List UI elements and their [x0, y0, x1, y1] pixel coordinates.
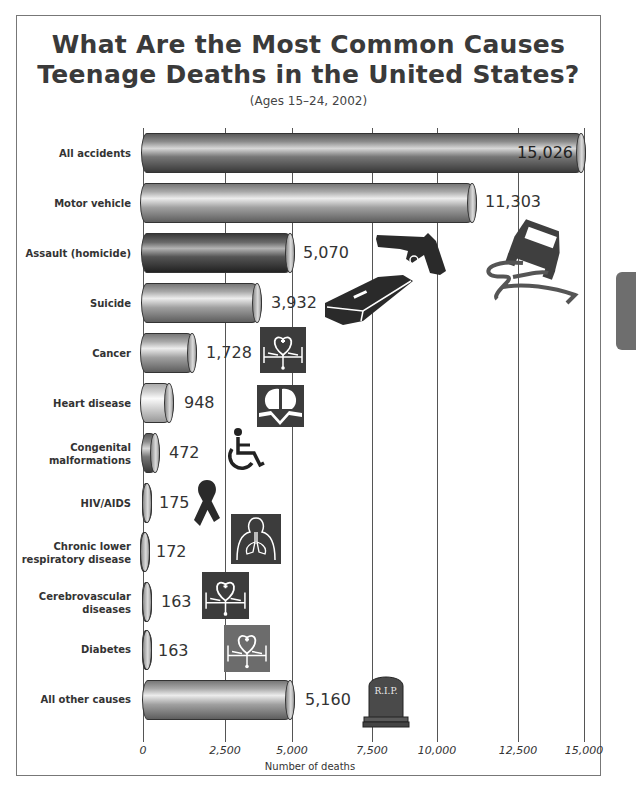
x-tick-12500: 12,500: [499, 744, 538, 757]
gridline-15000: [584, 128, 585, 742]
stethoscope-bed-glyph: [260, 327, 306, 373]
value-suicide: 3,932: [271, 293, 317, 312]
heart-icon: [257, 385, 304, 427]
bar-motor-vehicle: [140, 183, 477, 223]
stethoscope-bed-icon: [202, 572, 249, 619]
x-tick-15000: 15,000: [565, 744, 604, 757]
row-label-suicide: Suicide: [1, 297, 131, 310]
chart-title-line1: What Are the Most Common Causes: [16, 30, 601, 59]
stethoscope-bed-glyph: [202, 572, 249, 619]
skidding-car-icon: [483, 215, 583, 307]
value-assault: 5,070: [303, 243, 349, 262]
value-diabetes: 163: [158, 641, 189, 660]
bar-cancer: [140, 333, 197, 373]
stethoscope-bed-icon: [224, 625, 270, 672]
row-label-motor-vehicle: Motor vehicle: [1, 197, 131, 210]
bar-diabetes: [142, 630, 152, 670]
row-label-assault: Assault (homicide): [1, 247, 131, 260]
wheelchair-icon: [226, 427, 268, 471]
value-hiv-aids: 175: [159, 493, 190, 512]
lungs-icon: [231, 514, 281, 564]
bar-congenital: [141, 433, 160, 473]
label-line: diseases: [82, 604, 131, 615]
awareness-ribbon-icon: [192, 478, 222, 532]
chart-title-line2: Teenage Deaths in the United States?: [16, 60, 601, 89]
revolver-icon: [374, 233, 450, 278]
row-label-chronic-respiratory: Chronic lowerrespiratory disease: [1, 540, 131, 566]
chart-subtitle: (Ages 15–24, 2002): [16, 94, 601, 108]
row-label-cerebrovascular: Cerebrovasculardiseases: [1, 590, 131, 616]
chart-frame: [16, 15, 601, 776]
value-heart-disease: 948: [184, 393, 215, 412]
value-congenital: 472: [169, 443, 200, 462]
tombstone-icon: R.I.P.: [362, 672, 410, 728]
bar-heart-disease: [140, 383, 174, 423]
bar-hiv-aids: [142, 483, 152, 523]
bar-all-other: [142, 680, 295, 720]
lungs-glyph: [231, 514, 281, 564]
bar-chronic-respiratory: [140, 532, 150, 572]
row-label-hiv-aids: HIV/AIDS: [1, 497, 131, 510]
value-all-accidents: 15,026: [517, 143, 573, 162]
label-line: Chronic lower: [54, 541, 131, 552]
tombstone-glyph: [362, 672, 410, 728]
coffin-icon: [323, 273, 413, 328]
label-line: respiratory disease: [22, 554, 131, 565]
row-label-diabetes: Diabetes: [1, 643, 131, 656]
value-cerebrovascular: 163: [161, 592, 192, 611]
value-cancer: 1,728: [206, 343, 252, 362]
row-label-congenital: Congenitalmalformations: [1, 441, 131, 467]
stethoscope-bed-glyph: [224, 625, 270, 672]
heart-glyph: [257, 385, 304, 427]
row-label-heart-disease: Heart disease: [1, 397, 131, 410]
x-tick-10000: 10,000: [418, 744, 457, 757]
x-tick-0: 0: [140, 744, 147, 757]
x-tick-7500: 7,500: [356, 744, 388, 757]
row-label-all-other: All other causes: [1, 693, 131, 706]
x-tick-2500: 2,500: [209, 744, 241, 757]
tombstone-text: R.I.P.: [362, 686, 410, 696]
label-line: Congenital: [70, 442, 131, 453]
value-all-other: 5,160: [305, 690, 351, 709]
x-tick-5000: 5,000: [276, 744, 308, 757]
bar-assault: [141, 233, 295, 273]
value-chronic-respiratory: 172: [156, 542, 187, 561]
label-line: Cerebrovascular: [39, 591, 131, 602]
value-motor-vehicle: 11,303: [485, 192, 541, 211]
stethoscope-bed-icon: [260, 327, 306, 373]
label-line: malformations: [49, 455, 131, 466]
row-label-cancer: Cancer: [1, 347, 131, 360]
x-axis-label: Number of deaths: [265, 761, 355, 772]
row-label-all-accidents: All accidents: [1, 147, 131, 160]
page-side-tab: [616, 272, 636, 350]
bar-suicide: [141, 283, 262, 323]
bar-cerebrovascular: [142, 582, 152, 622]
